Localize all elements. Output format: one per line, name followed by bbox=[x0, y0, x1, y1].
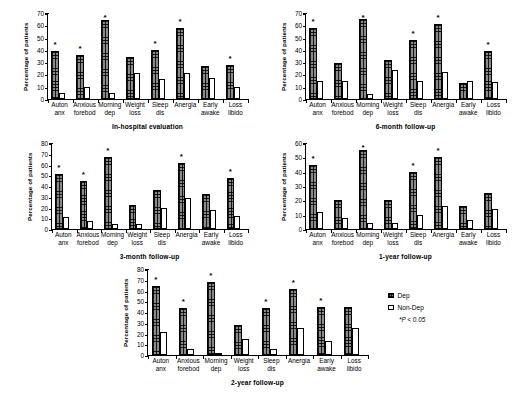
bar-dep bbox=[129, 205, 136, 229]
x-tick-label-line: Sleep bbox=[150, 231, 175, 239]
x-tick-label-line: Auton bbox=[47, 101, 72, 109]
bar-non-dep bbox=[270, 349, 277, 355]
bar-group: * bbox=[176, 270, 204, 355]
y-tick-label: 10 bbox=[37, 85, 44, 91]
x-tick-label-line: libido bbox=[340, 365, 368, 373]
x-tick-label-line: Early bbox=[199, 231, 224, 239]
y-tick-label: 70 bbox=[295, 11, 302, 17]
plot-area-3-month: Percentage of patients01020304050607080*… bbox=[22, 144, 250, 264]
x-tick-label-line: Weight bbox=[380, 101, 405, 109]
plot-area-in-hospital: Percentage of patients010203040506070***… bbox=[18, 14, 250, 134]
bar-dep bbox=[484, 193, 492, 229]
bar-non-dep bbox=[63, 217, 69, 229]
bar-group bbox=[126, 144, 151, 229]
x-tick-label: Anxiousforebod bbox=[76, 231, 101, 247]
y-axis-title: Percentage of patients bbox=[276, 144, 290, 230]
x-tick-label-line: anx bbox=[305, 109, 330, 117]
x-tick-label: Anergia bbox=[431, 231, 456, 239]
bar-group: * bbox=[431, 14, 456, 99]
x-tick-label-line: dis bbox=[406, 109, 431, 117]
bar-dep bbox=[151, 50, 159, 99]
plot-area-2-year: Percentage of patients01020304050607080*… bbox=[118, 270, 370, 390]
bar-dep bbox=[384, 200, 392, 229]
bar-non-dep bbox=[467, 81, 474, 99]
x-tick-label-line: dis bbox=[258, 365, 286, 373]
x-tick-label-line: Anergia bbox=[431, 101, 456, 109]
bar-non-dep bbox=[234, 87, 241, 99]
x-tick-label-line: dep bbox=[355, 239, 380, 247]
y-tick-label: 10 bbox=[295, 212, 302, 218]
x-tick-label-line: Morning bbox=[97, 101, 122, 109]
y-tick-label: 0 bbox=[44, 227, 48, 233]
x-tick-label-line: anx bbox=[147, 365, 175, 373]
y-tick-label: 20 bbox=[295, 72, 302, 78]
y-tick-label: 20 bbox=[295, 198, 302, 204]
x-tick-label-line: Weight bbox=[125, 231, 150, 239]
significance-star: * bbox=[228, 55, 231, 63]
x-tick-label-line: Sleep bbox=[406, 101, 431, 109]
bar-non-dep bbox=[87, 221, 93, 229]
bar-non-dep bbox=[187, 349, 194, 355]
bar-dep bbox=[459, 83, 467, 99]
bar-dep bbox=[334, 200, 342, 229]
chart-panel-1-year: Percentage of patients0102030405060****A… bbox=[276, 144, 508, 264]
bar-dep bbox=[226, 65, 234, 99]
bar-group bbox=[198, 14, 223, 99]
x-axis-labels: AutonanxAnxiousforebodMorningdepWeightlo… bbox=[147, 357, 368, 379]
y-tick-label: 10 bbox=[295, 85, 302, 91]
bar-group bbox=[456, 144, 481, 229]
bar-group bbox=[231, 270, 259, 355]
axes: ***** bbox=[51, 144, 248, 230]
x-tick-label: Autonanx bbox=[305, 101, 330, 117]
bar-dep bbox=[101, 20, 109, 99]
x-axis-labels: AutonanxAnxiousforebodMorningdepWeightlo… bbox=[305, 231, 506, 253]
x-tick-label-line: Anxious bbox=[175, 357, 203, 365]
x-tick-label-line: Morning bbox=[202, 357, 230, 365]
bar-dep bbox=[434, 24, 442, 99]
bar-non-dep bbox=[215, 353, 222, 355]
x-tick-label-line: Anxious bbox=[72, 101, 97, 109]
x-tick-label: Losslibido bbox=[340, 357, 368, 373]
figure-multi-panel-bar-charts: Percentage of patients010203040506070***… bbox=[0, 0, 517, 397]
x-tick-label-line: anx bbox=[47, 109, 72, 117]
x-tick-label: Earlyawake bbox=[198, 101, 223, 117]
bar-non-dep bbox=[184, 73, 191, 99]
bar-dep bbox=[55, 174, 62, 229]
x-tick-label: Morningdep bbox=[202, 357, 230, 373]
bar-group: * bbox=[52, 144, 77, 229]
significance-star: * bbox=[154, 276, 157, 284]
bar-group: * bbox=[431, 144, 456, 229]
x-tick-label-line: Early bbox=[456, 231, 481, 239]
bar-group: * bbox=[175, 144, 200, 229]
x-tick-label-line: Anxious bbox=[330, 231, 355, 239]
bar-non-dep bbox=[442, 72, 449, 99]
significance-star: * bbox=[82, 171, 85, 179]
y-tick-label: 20 bbox=[41, 205, 48, 211]
x-tick-label: Weightloss bbox=[125, 231, 150, 247]
significance-star: * bbox=[153, 40, 156, 48]
bar-series-container: ***** bbox=[52, 144, 248, 229]
x-tick-mark bbox=[368, 355, 369, 359]
x-tick-label-line: Anxious bbox=[330, 101, 355, 109]
x-tick-label-line: forebod bbox=[330, 109, 355, 117]
x-axis-labels: AutonanxAnxiousforebodMorningdepWeightlo… bbox=[51, 231, 248, 253]
x-tick-label-line: anx bbox=[51, 239, 76, 247]
bar-dep bbox=[334, 63, 342, 99]
bar-non-dep bbox=[159, 79, 166, 99]
bar-dep bbox=[126, 57, 134, 99]
bar-series-container: **** bbox=[306, 144, 506, 229]
bar-group bbox=[331, 144, 356, 229]
chart-panel-3-month: Percentage of patients01020304050607080*… bbox=[22, 144, 250, 264]
y-tick-label: 40 bbox=[295, 169, 302, 175]
x-tick-label-line: Sleep bbox=[258, 357, 286, 365]
y-axis-title: Percentage of patients bbox=[118, 270, 132, 356]
y-tick-label: 60 bbox=[37, 23, 44, 29]
p-value-text: P < 0.05 bbox=[402, 316, 426, 323]
x-tick-label-line: Anergia bbox=[173, 101, 198, 109]
bar-dep bbox=[176, 28, 184, 99]
x-tick-label: Anxiousforebod bbox=[72, 101, 97, 117]
y-tick-label: 80 bbox=[41, 141, 48, 147]
x-tick-label: Anergia bbox=[173, 101, 198, 109]
x-axis-labels: AutonanxAnxiousforebodMorningdepWeightlo… bbox=[305, 101, 506, 123]
x-tick-label: Sleepdis bbox=[148, 101, 173, 117]
